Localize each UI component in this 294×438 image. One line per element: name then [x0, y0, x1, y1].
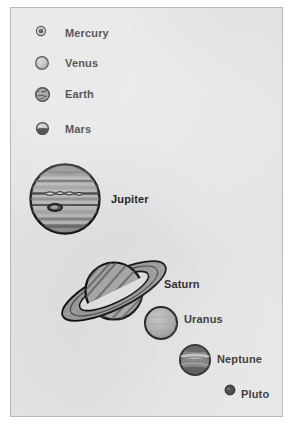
planet-disc-venus-icon	[34, 55, 50, 71]
planet-earth	[34, 86, 51, 103]
planet-disc-uranus-icon	[142, 304, 180, 342]
planet-label-uranus: Uranus	[184, 314, 223, 325]
planet-label-saturn: Saturn	[164, 279, 200, 290]
planet-label-neptune: Neptune	[217, 354, 262, 365]
planet-disc-jupiter-icon	[26, 160, 104, 238]
diagram-plate: Mercury Venus	[10, 7, 283, 417]
planet-label-mercury: Mercury	[65, 28, 109, 39]
planet-mars	[35, 121, 50, 136]
planet-uranus	[142, 304, 180, 342]
planet-pluto	[223, 383, 237, 397]
planet-disc-mars-icon	[35, 121, 50, 136]
planet-disc-earth-icon	[34, 86, 51, 103]
planet-label-pluto: Pluto	[241, 389, 269, 400]
planet-size-comparison-figure: Mercury Venus	[0, 0, 294, 438]
planet-disc-neptune-icon	[177, 342, 213, 378]
planet-label-earth: Earth	[65, 89, 94, 100]
planet-label-mars: Mars	[65, 124, 91, 135]
planet-mercury	[35, 25, 47, 37]
planet-jupiter	[26, 160, 104, 238]
planet-disc-pluto-icon	[223, 383, 237, 397]
planet-neptune	[177, 342, 213, 378]
planet-label-jupiter: Jupiter	[111, 194, 149, 205]
planet-disc-mercury-icon	[35, 25, 47, 37]
planet-label-venus: Venus	[65, 58, 98, 69]
planet-venus	[34, 55, 50, 71]
